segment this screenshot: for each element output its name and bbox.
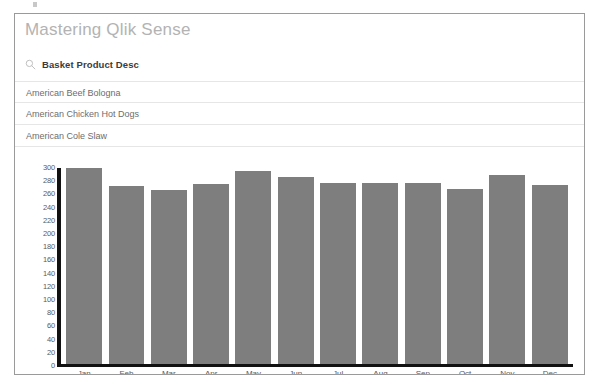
- bar-slot[interactable]: [317, 168, 359, 366]
- bar[interactable]: [151, 190, 187, 366]
- bar-slot[interactable]: [486, 168, 528, 366]
- bar[interactable]: [447, 189, 483, 366]
- bar-chart[interactable]: 3002802602402202001801601401201008060402…: [15, 154, 585, 374]
- chart-bars: [63, 168, 571, 366]
- x-tick-label: Jul: [317, 369, 359, 375]
- page-title: Mastering Qlik Sense: [25, 20, 191, 40]
- frame-artifact: [33, 2, 37, 7]
- y-axis-line: [57, 168, 61, 367]
- y-tick-label: 280: [43, 177, 55, 185]
- bar[interactable]: [320, 183, 356, 366]
- filter-search-row[interactable]: Basket Product Desc: [15, 53, 584, 75]
- bar[interactable]: [405, 183, 441, 366]
- bar-slot[interactable]: [359, 168, 401, 366]
- x-tick-label: Sep: [402, 369, 444, 375]
- bar-slot[interactable]: [105, 168, 147, 366]
- bar[interactable]: [235, 171, 271, 366]
- y-tick-label: 260: [43, 191, 55, 199]
- x-tick-label: Dec: [529, 369, 571, 375]
- x-tick-label: Apr: [190, 369, 232, 375]
- y-tick-label: 40: [47, 336, 55, 344]
- bar-slot[interactable]: [444, 168, 486, 366]
- y-tick-label: 180: [43, 243, 55, 251]
- y-tick-label: 200: [43, 230, 55, 238]
- y-tick-label: 300: [43, 164, 55, 172]
- bar-slot[interactable]: [529, 168, 571, 366]
- bar-slot[interactable]: [190, 168, 232, 366]
- search-icon[interactable]: [25, 59, 36, 70]
- y-tick-label: 240: [43, 204, 55, 212]
- x-tick-label: May: [232, 369, 274, 375]
- list-item[interactable]: American Beef Bologna: [15, 81, 584, 103]
- x-tick-label: Nov: [486, 369, 528, 375]
- y-tick-label: 60: [47, 323, 55, 331]
- y-tick-label: 100: [43, 296, 55, 304]
- bar-slot[interactable]: [402, 168, 444, 366]
- app-sheet-frame: Mastering Qlik Sense Basket Product Desc…: [14, 13, 585, 375]
- bar[interactable]: [66, 168, 102, 366]
- y-tick-label: 220: [43, 217, 55, 225]
- x-axis-tick-labels: JanFebMarAprMayJunJulAugSepOctNovDec: [63, 369, 571, 375]
- y-tick-label: 0: [51, 362, 55, 370]
- bar[interactable]: [109, 186, 145, 366]
- bar[interactable]: [489, 175, 525, 366]
- x-axis-line: [57, 364, 573, 367]
- x-tick-label: Jan: [63, 369, 105, 375]
- bar[interactable]: [193, 184, 229, 366]
- bar-slot[interactable]: [148, 168, 190, 366]
- y-tick-label: 80: [47, 309, 55, 317]
- bar[interactable]: [362, 183, 398, 366]
- y-tick-label: 140: [43, 270, 55, 278]
- y-tick-label: 160: [43, 257, 55, 265]
- x-tick-label: Mar: [148, 369, 190, 375]
- y-axis-tick-labels: 3002802602402202001801601401201008060402…: [15, 168, 55, 366]
- bar-slot[interactable]: [275, 168, 317, 366]
- bar-slot[interactable]: [232, 168, 274, 366]
- list-item[interactable]: American Chicken Hot Dogs: [15, 103, 584, 125]
- x-tick-label: Aug: [359, 369, 401, 375]
- x-tick-label: Oct: [444, 369, 486, 375]
- bar[interactable]: [278, 177, 314, 366]
- filter-list: American Beef Bologna American Chicken H…: [15, 81, 584, 147]
- y-tick-label: 120: [43, 283, 55, 291]
- filter-pane: Basket Product Desc American Beef Bologn…: [15, 53, 584, 147]
- bar[interactable]: [532, 185, 568, 366]
- x-tick-label: Feb: [105, 369, 147, 375]
- list-item[interactable]: American Cole Slaw: [15, 125, 584, 147]
- filter-field-label: Basket Product Desc: [42, 59, 139, 70]
- bar-slot[interactable]: [63, 168, 105, 366]
- y-tick-label: 20: [47, 349, 55, 357]
- x-tick-label: Jun: [275, 369, 317, 375]
